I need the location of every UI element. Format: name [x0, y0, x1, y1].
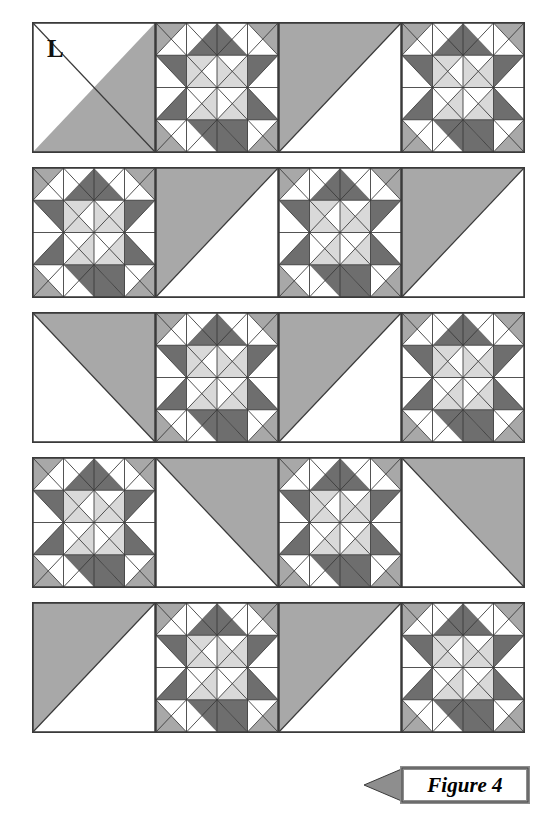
triangle-panel-graphic [279, 23, 401, 152]
half-square-triangle-panel [32, 602, 156, 733]
half-square-triangle-panel [155, 167, 279, 298]
figure-sheet: L Figure 4 [0, 0, 558, 828]
quilt-row: L [32, 22, 528, 153]
half-square-triangle-panel [278, 602, 402, 733]
star-block [155, 602, 279, 733]
star-block-graphic [279, 168, 401, 297]
figure-caption-banner: Figure 4 [364, 766, 530, 804]
star-block [401, 312, 525, 443]
quilt-row [32, 312, 528, 443]
triangle-panel-graphic [33, 313, 155, 442]
star-block [32, 457, 156, 588]
star-block-graphic [33, 168, 155, 297]
triangle-panel-graphic [156, 458, 278, 587]
star-block-graphic [156, 603, 278, 732]
half-square-triangle-panel [401, 457, 525, 588]
star-block-graphic [402, 603, 524, 732]
triangle-panel-graphic [156, 168, 278, 297]
half-square-triangle-panel [278, 22, 402, 153]
star-block-graphic [156, 313, 278, 442]
half-square-triangle-panel: L [32, 22, 156, 153]
star-block [401, 602, 525, 733]
quilt-row [32, 602, 528, 733]
half-square-triangle-panel [278, 312, 402, 443]
star-block-graphic [279, 458, 401, 587]
star-block-graphic [402, 313, 524, 442]
quilt-row [32, 167, 528, 298]
half-square-triangle-panel [155, 457, 279, 588]
star-block [155, 312, 279, 443]
star-block-graphic [156, 23, 278, 152]
star-block [278, 457, 402, 588]
star-block [278, 167, 402, 298]
triangle-panel-graphic [279, 313, 401, 442]
corner-label: L [47, 36, 64, 61]
triangle-panel-graphic [33, 603, 155, 732]
star-block [32, 167, 156, 298]
triangle-panel-graphic [402, 458, 524, 587]
star-block [155, 22, 279, 153]
quilt-row [32, 457, 528, 588]
star-block-graphic [33, 458, 155, 587]
triangle-panel-graphic [402, 168, 524, 297]
star-block [401, 22, 525, 153]
half-square-triangle-panel [32, 312, 156, 443]
figure-caption-text: Figure 4 [408, 766, 526, 804]
triangle-panel-graphic [279, 603, 401, 732]
half-square-triangle-panel [401, 167, 525, 298]
star-block-graphic [402, 23, 524, 152]
